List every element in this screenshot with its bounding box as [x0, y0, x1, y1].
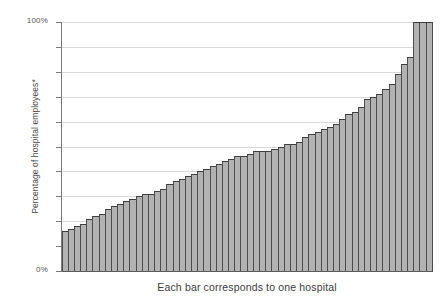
plot-area: [62, 22, 432, 271]
y-axis-label: Percentage of hospital employees*: [26, 22, 44, 271]
bar-series: [62, 22, 432, 271]
chart-figure: Percentage of hospital employees* 100% 0…: [0, 0, 441, 307]
x-axis-line: [61, 271, 433, 272]
y-axis-tick-label-top: 100%: [14, 16, 48, 25]
x-axis-caption: Each bar corresponds to one hospital: [62, 281, 432, 293]
y-axis-tick-label-bottom: 0%: [14, 265, 48, 274]
tick-mark: [56, 271, 62, 272]
bar: [426, 22, 433, 271]
